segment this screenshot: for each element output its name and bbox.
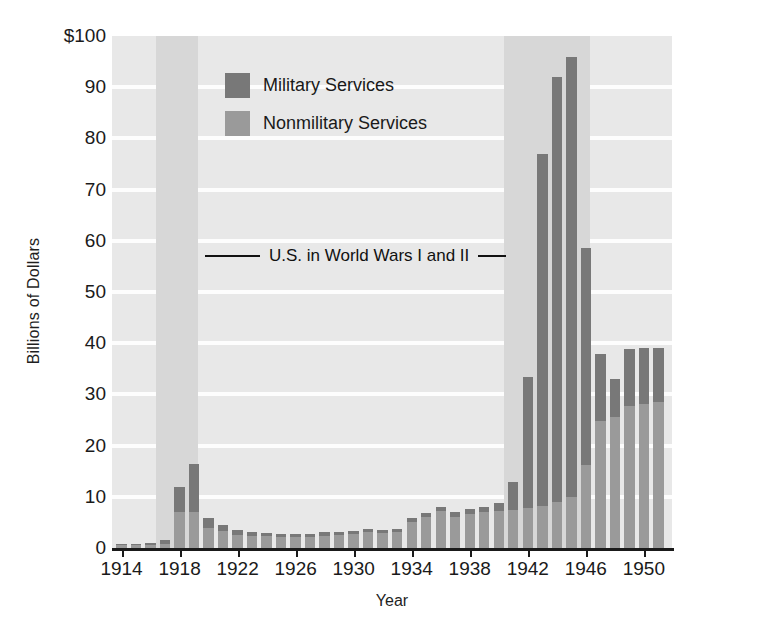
bar-1941 [508, 482, 518, 548]
bar-segment-military [218, 525, 228, 531]
bar-segment-nonmilitary [639, 404, 649, 548]
bar-1929 [334, 532, 344, 548]
bar-1947 [595, 354, 605, 548]
legend-item-nonmilitary: Nonmilitary Services [225, 111, 485, 136]
y-tick-label: 70 [48, 180, 106, 199]
bar-1948 [610, 379, 620, 548]
bar-1920 [203, 518, 213, 548]
y-tick-label: 20 [48, 436, 106, 455]
bar-segment-nonmilitary [218, 531, 228, 548]
y-tick-label: 60 [48, 231, 106, 250]
bar-1937 [450, 512, 460, 548]
bar-segment-military [653, 348, 663, 402]
bar-segment-military [363, 529, 373, 533]
bar-1932 [377, 530, 387, 548]
y-tick-label: 0 [48, 538, 106, 557]
bar-segment-nonmilitary [494, 511, 504, 548]
bar-segment-military [145, 543, 155, 545]
bar-segment-military [189, 464, 199, 512]
y-tick-label: 40 [48, 333, 106, 352]
bar-1934 [407, 518, 417, 548]
x-tick-mark [296, 548, 298, 557]
bar-segment-military [436, 507, 446, 512]
annotation-rule-left [205, 255, 260, 257]
bar-segment-military [305, 534, 315, 537]
bar-segment-military [334, 532, 344, 536]
legend-label-nonmilitary: Nonmilitary Services [263, 113, 427, 134]
x-tick-mark [180, 548, 182, 557]
bar-segment-military [639, 348, 649, 404]
bar-1924 [261, 533, 271, 548]
bar-segment-military [595, 354, 605, 421]
y-axis-tick-labels: $1009080706050403020100 [44, 0, 106, 626]
annotation-label: U.S. in World Wars I and II [260, 246, 478, 266]
bar-segment-military [276, 534, 286, 537]
x-tick-mark [586, 548, 588, 557]
bar-segment-nonmilitary [247, 536, 257, 548]
bar-1933 [392, 529, 402, 548]
bar-segment-nonmilitary [232, 535, 242, 548]
bar-1935 [421, 513, 431, 548]
bar-1926 [290, 534, 300, 548]
bar-segment-military [624, 349, 634, 406]
annotation-rule-right [478, 255, 506, 257]
war-period-annotation: U.S. in World Wars I and II [205, 245, 595, 267]
bar-segment-military [348, 531, 358, 535]
bar-1945 [566, 56, 576, 548]
x-tick-mark [354, 548, 356, 557]
bar-segment-military [247, 532, 257, 536]
y-tick-label: 80 [48, 128, 106, 147]
bar-1943 [537, 154, 547, 548]
bar-1928 [319, 532, 329, 548]
y-tick-label: 90 [48, 77, 106, 96]
bar-segment-nonmilitary [377, 533, 387, 548]
bar-1925 [276, 534, 286, 548]
legend-item-military: Military Services [225, 73, 485, 98]
bar-segment-nonmilitary [276, 537, 286, 548]
bar-1950 [639, 348, 649, 548]
bar-segment-military [261, 533, 271, 536]
bar-1938 [465, 509, 475, 548]
bar-1951 [653, 348, 663, 548]
bar-segment-nonmilitary [436, 511, 446, 548]
bar-1917 [160, 540, 170, 548]
bar-segment-military [450, 512, 460, 517]
bar-1927 [305, 534, 315, 548]
bar-segment-military [116, 544, 126, 546]
bar-segment-nonmilitary [392, 532, 402, 548]
bar-1936 [436, 507, 446, 548]
bar-segment-nonmilitary [537, 506, 547, 548]
bar-segment-military [174, 487, 184, 513]
y-tick-label: 50 [48, 282, 106, 301]
legend-label-military: Military Services [263, 75, 394, 96]
bar-segment-military [160, 540, 170, 544]
bar-segment-nonmilitary [407, 522, 417, 548]
chart-figure: Billions of Dollars $1009080706050403020… [0, 0, 780, 626]
bar-segment-military [377, 530, 387, 534]
bar-segment-military [421, 513, 431, 518]
bar-segment-military [131, 544, 141, 546]
bar-segment-nonmilitary [189, 512, 199, 548]
bar-segment-military [552, 77, 562, 502]
bar-segment-military [290, 534, 300, 537]
bar-segment-military [407, 518, 417, 522]
bar-segment-nonmilitary [450, 517, 460, 548]
bar-segment-nonmilitary [465, 514, 475, 548]
x-tick-mark [238, 548, 240, 557]
bar-segment-military [319, 532, 329, 536]
bar-segment-nonmilitary [581, 465, 591, 548]
bar-segment-nonmilitary [595, 421, 605, 548]
bar-segment-military [465, 509, 475, 514]
bar-segment-military [523, 377, 533, 508]
bar-segment-nonmilitary [523, 508, 533, 548]
x-tick-mark [412, 548, 414, 557]
bar-1939 [479, 507, 489, 548]
bar-segment-nonmilitary [566, 497, 576, 548]
bar-segment-nonmilitary [334, 535, 344, 548]
bar-segment-nonmilitary [290, 537, 300, 548]
bar-1923 [247, 532, 257, 548]
bar-segment-nonmilitary [305, 537, 315, 548]
bar-segment-nonmilitary [552, 502, 562, 548]
y-tick-label: $100 [48, 26, 106, 45]
x-tick-mark [528, 548, 530, 557]
